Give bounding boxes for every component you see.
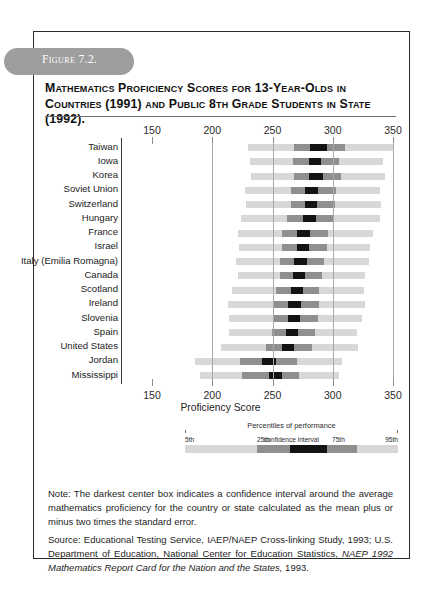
seg-5th-25th [238, 230, 283, 237]
category-label-12: Slovenia [0, 312, 118, 323]
legend-s25 [257, 445, 290, 453]
seg-25th-ci [291, 187, 305, 194]
seg-75th-95th [334, 215, 380, 222]
seg-confidence-interval [262, 358, 276, 365]
seg-75th-95th [318, 315, 361, 322]
seg-confidence-interval [305, 187, 318, 194]
gridline-350 [393, 143, 394, 379]
category-label-14: United States [0, 340, 118, 351]
seg-75th-95th [341, 173, 384, 180]
legend-s95 [357, 445, 398, 453]
percentile-bar-11 [228, 301, 365, 308]
category-label-6: France [0, 226, 118, 237]
seg-5th-25th [232, 287, 277, 294]
seg-25th-ci [282, 244, 296, 251]
category-label-0: Taiwan [0, 141, 118, 152]
seg-25th-ci [293, 158, 309, 165]
seg-75th-95th [319, 287, 364, 294]
seg-5th-25th [246, 201, 291, 208]
seg-confidence-interval [294, 258, 307, 265]
percentile-bar-15 [195, 358, 342, 365]
x-tick-bottom-250 [273, 379, 274, 386]
x-tick-label-150: 150 [143, 124, 161, 136]
seg-ci-75th [276, 358, 296, 365]
seg-25th-ci [291, 201, 305, 208]
category-label-5: Hungary [0, 212, 118, 223]
legend-tick-5th: 5th [185, 436, 194, 443]
seg-confidence-interval [305, 201, 317, 208]
seg-75th-95th [335, 201, 381, 208]
seg-ci-75th [307, 258, 324, 265]
figure-source: Source: Educational Testing Service, IAE… [48, 533, 393, 576]
seg-ci-75th [310, 230, 328, 237]
x-tick-label-250: 250 [264, 389, 282, 401]
seg-confidence-interval [309, 173, 323, 180]
category-label-1: Iowa [0, 155, 118, 166]
seg-ci-75th [309, 244, 327, 251]
seg-ci-75th [294, 344, 312, 351]
seg-25th-ci [280, 258, 294, 265]
category-label-16: Mississippi [0, 369, 118, 380]
seg-confidence-interval [297, 230, 310, 237]
chart-left-axis [121, 138, 122, 384]
percentile-bar-8 [236, 258, 369, 265]
x-tick-label-200: 200 [203, 124, 221, 136]
seg-5th-25th [241, 215, 287, 222]
seg-75th-95th [339, 158, 384, 165]
seg-confidence-interval [291, 287, 303, 294]
x-tick-label-300: 300 [324, 124, 342, 136]
x-tick-label-300: 300 [324, 389, 342, 401]
seg-75th-95th [345, 144, 393, 151]
seg-confidence-interval [269, 372, 282, 379]
seg-ci-75th [298, 329, 315, 336]
gridline-300 [333, 143, 334, 379]
seg-25th-ci [282, 230, 296, 237]
seg-confidence-interval [282, 344, 294, 351]
seg-5th-25th [228, 301, 274, 308]
seg-5th-25th [229, 315, 274, 322]
category-label-4: Switzerland [0, 198, 118, 209]
x-tick-label-200: 200 [203, 389, 221, 401]
percentile-bar-3 [245, 187, 380, 194]
seg-75th-95th [312, 344, 358, 351]
category-label-3: Soviet Union [0, 183, 118, 194]
legend-tick-75th: 75th [332, 436, 345, 443]
seg-75th-95th [297, 358, 343, 365]
seg-25th-ci [272, 329, 285, 336]
seg-75th-95th [328, 230, 373, 237]
x-tick-bottom-300 [333, 379, 334, 386]
figure-number-pill: Figure 7.2. [4, 48, 134, 75]
seg-confidence-interval [303, 215, 316, 222]
x-axis-label: Proficiency Score [0, 402, 441, 413]
gridline-250 [273, 143, 274, 379]
category-label-13: Spain [0, 326, 118, 337]
legend-gradient-bar [185, 445, 398, 453]
category-label-10: Scotland [0, 283, 118, 294]
seg-25th-ci [276, 287, 290, 294]
percentile-bar-1 [250, 158, 384, 165]
seg-5th-25th [245, 187, 291, 194]
seg-75th-95th [315, 329, 357, 336]
category-label-8: Italy (Emilia Romagna) [0, 255, 118, 266]
seg-25th-ci [294, 173, 308, 180]
percentile-bar-10 [232, 287, 365, 294]
seg-25th-ci [240, 358, 262, 365]
percentile-bar-0 [248, 144, 393, 151]
seg-25th-ci [280, 272, 293, 279]
seg-ci-75th [282, 372, 299, 379]
percentile-bar-4 [246, 201, 381, 208]
figure-page: Figure 7.2. Mathematics Proficiency Scor… [0, 0, 441, 591]
seg-5th-25th [229, 329, 272, 336]
seg-75th-95th [322, 272, 365, 279]
category-label-11: Ireland [0, 297, 118, 308]
seg-5th-25th [221, 344, 267, 351]
legend-s5 [185, 445, 257, 453]
figure-number-label: Figure 7.2. [42, 53, 97, 65]
legend-caption-text: Percentiles of performance [244, 421, 338, 430]
seg-25th-ci [242, 372, 269, 379]
figure-note: Note: The darkest center box indicates a… [48, 487, 393, 530]
percentile-bar-9 [238, 272, 366, 279]
seg-25th-ci [294, 144, 310, 151]
seg-ci-75th [316, 215, 334, 222]
percentile-bar-6 [238, 230, 373, 237]
